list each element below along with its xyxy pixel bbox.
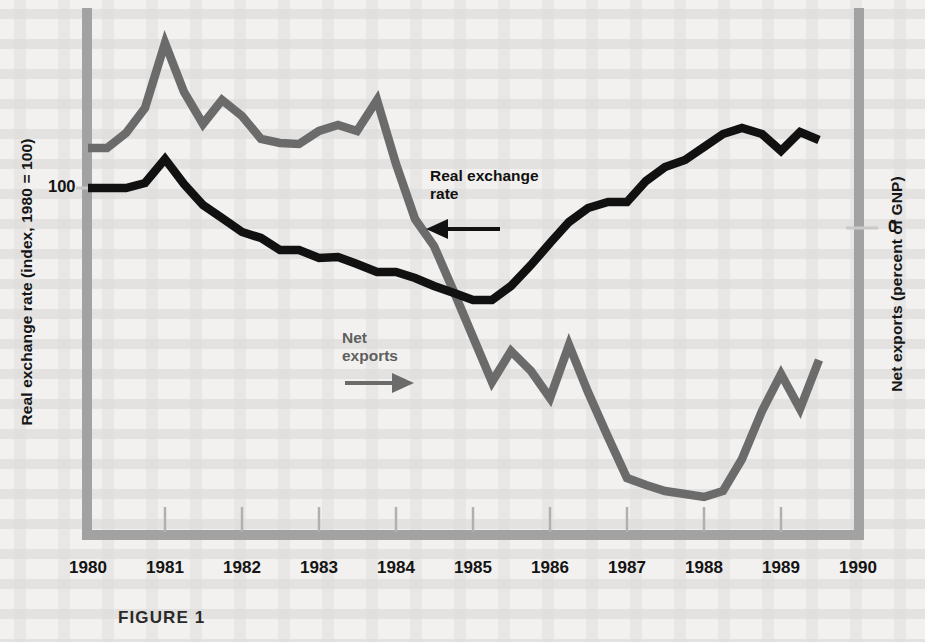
- x-tick-label-1986: 1986: [531, 558, 569, 578]
- right-axis-tick-label-0: 0: [888, 217, 897, 236]
- x-tick-label-1983: 1983: [300, 558, 338, 578]
- axis-frame-left: [82, 8, 92, 540]
- annotation-net-exports: Net exports: [342, 329, 398, 364]
- series-line-real-exchange-rate: [88, 128, 819, 300]
- figure-caption: FIGURE 1: [118, 608, 205, 628]
- left-axis-title: Real exchange rate (index, 1980 = 100): [18, 132, 36, 432]
- annotation-real-exchange-rate: Real exchange rate: [430, 167, 539, 202]
- x-tick-label-1985: 1985: [454, 558, 492, 578]
- x-tick-label-1980: 1980: [69, 558, 107, 578]
- x-tick-label-1981: 1981: [146, 558, 184, 578]
- series-line-net-exports: [88, 43, 819, 497]
- right-axis-title: Net exports (percent of GNP): [888, 134, 906, 434]
- x-tick-label-1988: 1988: [685, 558, 723, 578]
- real-exchange-rate-arrow-icon: [426, 219, 500, 239]
- x-tick-label-1987: 1987: [608, 558, 646, 578]
- left-axis-tick-label-100: 100: [48, 177, 76, 196]
- axis-frame-right: [854, 8, 864, 540]
- x-tick-label-1984: 1984: [377, 558, 415, 578]
- net-exports-arrow-icon: [345, 373, 414, 393]
- x-axis-ticks: [165, 507, 781, 532]
- x-tick-label-1982: 1982: [223, 558, 261, 578]
- figure-page: Real exchange rate (index, 1980 = 100) N…: [0, 0, 925, 642]
- x-tick-label-1990: 1990: [839, 558, 877, 578]
- x-tick-label-1989: 1989: [762, 558, 800, 578]
- chart-plot-area: [0, 0, 925, 642]
